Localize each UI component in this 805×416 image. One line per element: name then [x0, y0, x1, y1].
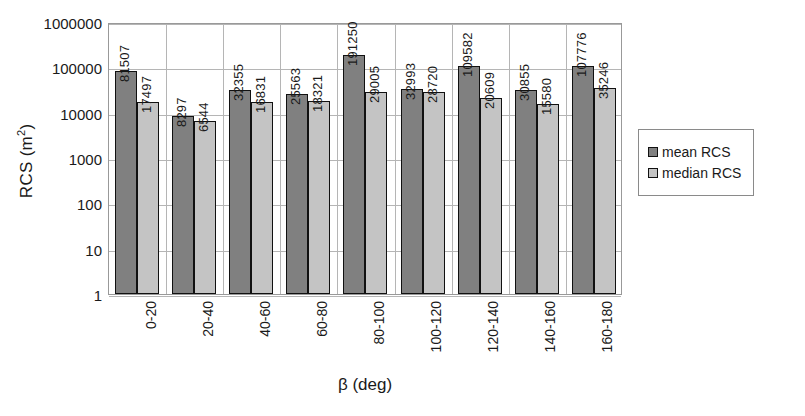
- x-axis-tick-label: 40-60: [258, 301, 272, 337]
- x-axis-tick-label: 120-140: [486, 301, 500, 352]
- bar-group: 82976544: [166, 24, 223, 294]
- bar-value-label: 28720: [426, 66, 439, 103]
- bar-value-label: 6544: [197, 102, 210, 132]
- bar-group: 3085515580: [509, 24, 566, 294]
- legend-swatch-icon: [648, 147, 658, 157]
- x-axis-tick-label: 0-20: [144, 301, 158, 329]
- y-axis-tick-label: 100: [28, 197, 102, 212]
- bar-median[interactable]: [423, 92, 445, 294]
- bar-value-label: 32993: [404, 63, 417, 100]
- bar-group: 3235516831: [223, 24, 280, 294]
- bar-value-label: 81507: [118, 45, 131, 82]
- x-axis-tick-label: 80-100: [372, 301, 386, 345]
- bar-median[interactable]: [308, 101, 330, 294]
- bar-mean[interactable]: [401, 89, 423, 294]
- plot-area: 8150717497829765443235516831255631832119…: [108, 23, 622, 295]
- y-axis-tick-label: 10000: [28, 106, 102, 121]
- bar-mean[interactable]: [458, 66, 480, 294]
- bar-value-label: 30855: [518, 64, 531, 101]
- bar-value-label: 15580: [540, 78, 553, 115]
- bar-median[interactable]: [251, 102, 273, 294]
- bar-value-label: 25563: [289, 68, 302, 105]
- bar-median[interactable]: [365, 92, 387, 294]
- x-axis-tick-label: 60-80: [315, 301, 329, 337]
- x-axis-title: β (deg): [108, 375, 622, 395]
- legend-label: median RCS: [662, 165, 741, 181]
- bar-mean[interactable]: [229, 90, 251, 294]
- bar-chart: RCS (m2) 1000000100000100001000100101 81…: [0, 0, 805, 416]
- bar-median[interactable]: [480, 98, 502, 294]
- y-axis-tick-label: 1: [28, 288, 102, 303]
- bar-value-label: 16831: [254, 76, 267, 113]
- bar-mean[interactable]: [286, 94, 308, 294]
- bar-mean[interactable]: [343, 55, 365, 294]
- bar-value-label: 32355: [232, 63, 245, 100]
- y-axis-tick-label: 1000: [28, 152, 102, 167]
- bar-mean[interactable]: [115, 71, 137, 294]
- bar-value-label: 29005: [368, 66, 381, 103]
- x-axis-tick-label: 20-40: [201, 301, 215, 337]
- x-axis-tick-labels: 0-2020-4040-6060-8080-100100-120120-1401…: [108, 295, 622, 365]
- y-axis-tick-label: 10: [28, 242, 102, 257]
- bar-group: 10777635246: [566, 24, 623, 294]
- bar-value-label: 17497: [140, 75, 153, 112]
- y-axis-tick-label: 1000000: [28, 16, 102, 31]
- bar-value-label: 191250: [346, 21, 359, 66]
- bar-group: 8150717497: [109, 24, 166, 294]
- bar-group: 3299328720: [395, 24, 452, 294]
- bar-group: 2556318321: [280, 24, 337, 294]
- bar-median[interactable]: [137, 102, 159, 294]
- bar-value-label: 18321: [311, 75, 324, 112]
- chart-legend: mean RCSmedian RCS: [638, 129, 754, 196]
- bar-median[interactable]: [594, 88, 616, 294]
- bar-value-label: 107776: [575, 32, 588, 77]
- y-axis-tick-label: 100000: [28, 61, 102, 76]
- bar-value-label: 109582: [461, 32, 474, 77]
- bar-mean[interactable]: [515, 90, 537, 294]
- x-axis-tick-label: 160-180: [600, 301, 614, 352]
- legend-item[interactable]: mean RCS: [648, 144, 741, 160]
- bar-median[interactable]: [194, 121, 216, 294]
- bar-mean[interactable]: [572, 66, 594, 294]
- x-axis-tick-label: 140-160: [543, 301, 557, 352]
- bar-median[interactable]: [537, 104, 559, 294]
- bar-value-label: 8297: [175, 98, 188, 128]
- bar-group: 10958220609: [452, 24, 509, 294]
- legend-swatch-icon: [648, 168, 658, 178]
- bar-mean[interactable]: [172, 116, 194, 294]
- bar-group: 19125029005: [337, 24, 394, 294]
- x-axis-tick-label: 100-120: [429, 301, 443, 352]
- y-axis-tick-labels: 1000000100000100001000100101: [28, 23, 102, 295]
- y-axis-title-exponent: 2: [15, 129, 27, 135]
- bar-value-label: 35246: [597, 62, 610, 99]
- legend-label: mean RCS: [662, 144, 730, 160]
- bar-value-label: 20609: [483, 72, 496, 109]
- legend-item[interactable]: median RCS: [648, 165, 741, 181]
